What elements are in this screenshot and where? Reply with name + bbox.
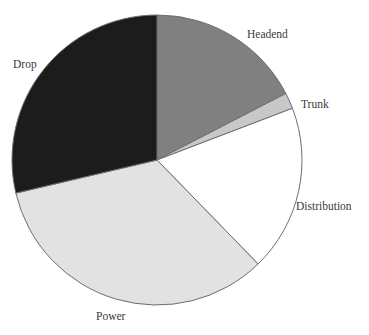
pie-slice-group [12,15,302,305]
pie-label-drop: Drop [13,59,37,71]
pie-label-trunk: Trunk [301,99,329,111]
pie-label-power: Power [96,311,125,323]
pie-label-headend: Headend [247,29,288,41]
pie-chart: Headend Trunk Distribution Power Drop [0,0,369,335]
pie-label-distribution: Distribution [296,201,352,213]
pie-chart-canvas [0,0,369,335]
